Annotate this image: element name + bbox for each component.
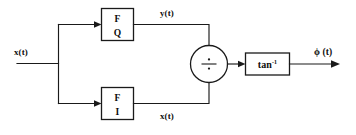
y-signal-wire	[134, 25, 210, 49]
arrow-output	[331, 60, 340, 68]
x-signal-wire	[134, 80, 210, 104]
input-label: x(t)	[14, 48, 28, 57]
diagram-canvas	[0, 0, 356, 135]
filter-q-label-line1: F	[102, 15, 134, 25]
divide-dot-bottom	[208, 67, 210, 69]
arrow-into-filter-q	[94, 21, 102, 28]
x-signal-label: x(t)	[160, 112, 174, 121]
y-signal-label: y(t)	[160, 9, 174, 18]
filter-i-label-line1: F	[102, 94, 134, 104]
arctan-exponent: -1	[272, 59, 277, 65]
arctan-base: tan	[258, 59, 272, 70]
arrow-into-arctan	[238, 61, 246, 68]
filter-i-label-line2: I	[102, 108, 134, 118]
block-diagram: x(t) F Q F I y(t) x(t) tan-1 ϕ (t)	[0, 0, 356, 135]
output-label: ϕ (t)	[314, 48, 332, 58]
divide-dot-top	[208, 58, 210, 60]
filter-q-label-line2: Q	[102, 29, 134, 39]
arrow-into-filter-i	[94, 100, 102, 107]
arctan-block-label: tan-1	[246, 59, 290, 70]
